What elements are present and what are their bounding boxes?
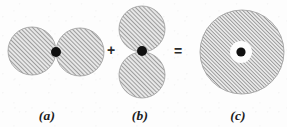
equals-operator: = [174, 44, 182, 58]
panel-b-caption: (b) [132, 108, 148, 124]
plus-operator: + [107, 43, 115, 57]
panel-b-bottom-lobe [119, 52, 165, 98]
panel-c-caption: (c) [230, 108, 246, 124]
panel-b-nucleus-dot [137, 46, 147, 56]
panel-a-caption: (a) [39, 108, 55, 124]
panel-b-orbital [119, 6, 165, 98]
panel-c-nucleus-dot [236, 47, 245, 56]
panel-a-nucleus-dot [51, 47, 61, 57]
panel-a-orbital [8, 27, 104, 76]
panel-b-top-lobe [119, 6, 165, 52]
panel-c-orbital [200, 10, 284, 94]
panel-a-right-lobe [56, 28, 104, 76]
orbital-combination-figure: + = (a) (b) (c) [0, 0, 287, 127]
panel-a-left-lobe [8, 27, 56, 75]
